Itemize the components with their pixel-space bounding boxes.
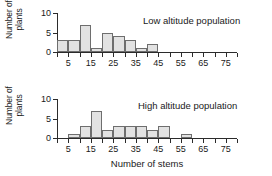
x-tick-mark: [170, 53, 171, 57]
bar-series-low-altitude: [57, 13, 237, 52]
x-tick-label: 35: [131, 59, 141, 68]
y-tick-label: 5: [46, 114, 51, 123]
x-tick-mark: [215, 139, 216, 143]
x-tick-mark: [181, 139, 182, 143]
y-tick-label: 0: [46, 48, 51, 57]
x-axis-title: Number of stems: [57, 158, 237, 169]
histogram-bar: [102, 130, 113, 138]
x-tick-mark: [192, 139, 193, 143]
x-tick-mark: [80, 53, 81, 57]
y-tick-mark: [53, 13, 57, 14]
x-tick-mark: [203, 139, 204, 143]
x-tick-label: 65: [198, 59, 208, 68]
x-tick-label: 65: [198, 145, 208, 154]
histogram-bar: [91, 48, 102, 52]
x-tick-mark: [203, 53, 204, 57]
x-tick-mark: [136, 53, 137, 57]
x-tick-mark: [237, 139, 238, 143]
histogram-bar: [80, 25, 91, 52]
x-tick-mark: [125, 53, 126, 57]
x-tick-label: 35: [131, 145, 141, 154]
x-tick-mark: [192, 53, 193, 57]
histogram-bar: [68, 40, 79, 52]
x-tick-label: 5: [66, 145, 71, 154]
histogram-bar: [125, 126, 136, 138]
y-axis-title-line2: plants: [14, 74, 24, 138]
x-tick-mark: [80, 139, 81, 143]
y-tick-mark: [53, 33, 57, 34]
histogram-bar: [68, 134, 79, 138]
x-tick-mark: [91, 53, 92, 57]
x-tick-mark: [158, 53, 159, 57]
y-tick-label: 10: [41, 95, 51, 104]
x-tick-label: 25: [108, 145, 118, 154]
histogram-bar: [102, 33, 113, 53]
histogram-bar: [80, 126, 91, 138]
x-tick-mark: [57, 53, 58, 57]
x-tick-mark: [57, 139, 58, 143]
x-tick-label: 55: [176, 59, 186, 68]
x-tick-mark: [158, 139, 159, 143]
x-tick-label: 5: [66, 59, 71, 68]
x-tick-mark: [91, 139, 92, 143]
y-axis-title-line2: plants: [14, 0, 24, 52]
y-tick-label: 5: [46, 28, 51, 37]
x-tick-mark: [170, 139, 171, 143]
x-tick-mark: [237, 53, 238, 57]
x-tick-mark: [102, 53, 103, 57]
plot-area-low-altitude: 0510 515253545556575: [57, 13, 237, 52]
x-tick-mark: [113, 53, 114, 57]
histogram-bar: [113, 126, 124, 138]
x-tick-mark: [68, 139, 69, 143]
x-tick-mark: [102, 139, 103, 143]
histogram-bar: [181, 134, 192, 138]
x-tick-mark: [226, 139, 227, 143]
x-tick-mark: [226, 53, 227, 57]
y-tick-mark: [53, 99, 57, 100]
x-tick-label: 55: [176, 145, 186, 154]
x-tick-label: 15: [86, 59, 96, 68]
histogram-bar: [147, 44, 158, 52]
y-tick-label: 0: [46, 134, 51, 143]
x-tick-label: 15: [86, 145, 96, 154]
x-tick-label: 45: [153, 145, 163, 154]
bar-series-high-altitude: [57, 99, 237, 138]
histogram-bar: [136, 48, 147, 52]
histogram-bar: [91, 111, 102, 138]
x-tick-mark: [125, 139, 126, 143]
histogram-bar: [158, 126, 169, 138]
histogram-bar: [136, 126, 147, 138]
y-axis-title-bottom: Number of plants: [5, 74, 24, 138]
x-tick-label: 25: [108, 59, 118, 68]
y-tick-mark: [53, 119, 57, 120]
y-tick-label: 10: [41, 9, 51, 18]
x-tick-mark: [113, 139, 114, 143]
plot-area-high-altitude: 0510 515253545556575: [57, 99, 237, 138]
x-tick-mark: [68, 53, 69, 57]
x-tick-mark: [181, 53, 182, 57]
x-tick-label: 75: [221, 59, 231, 68]
x-tick-label: 45: [153, 59, 163, 68]
histogram-bar: [147, 130, 158, 138]
chart-panel-low-altitude: Number of plants Low altitude population…: [0, 2, 272, 84]
x-tick-mark: [147, 139, 148, 143]
histogram-bar: [57, 40, 68, 52]
histogram-bar: [125, 40, 136, 52]
x-tick-label: 75: [221, 145, 231, 154]
y-axis-title-top: Number of plants: [5, 0, 24, 52]
x-tick-mark: [147, 53, 148, 57]
histogram-bar: [113, 36, 124, 52]
x-tick-mark: [215, 53, 216, 57]
figure-container: Number of plants Low altitude population…: [0, 0, 272, 176]
x-tick-mark: [136, 139, 137, 143]
